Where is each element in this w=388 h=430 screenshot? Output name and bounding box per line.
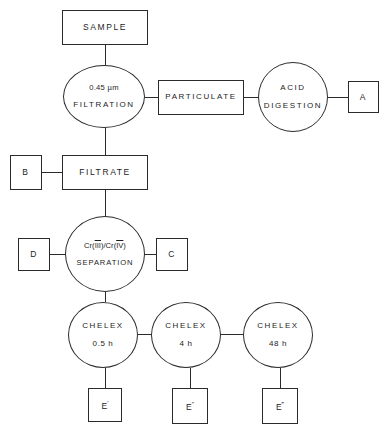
node-chelex-4h-label-line2: 4 h [180, 340, 193, 348]
node-a-label: A [360, 93, 367, 102]
node-b[interactable]: B [10, 155, 42, 190]
node-e2-label: E″ [186, 401, 194, 412]
node-e1-label: E′ [102, 400, 109, 411]
node-e3[interactable]: E‴ [262, 388, 298, 424]
node-a[interactable]: A [348, 81, 379, 113]
node-chelex-05h-label-line2: 0.5 h [93, 340, 114, 348]
node-chelex-4h[interactable]: CHELEX 4 h [151, 302, 221, 368]
node-sample-label: SAMPLE [83, 23, 127, 32]
node-d[interactable]: D [18, 238, 50, 271]
node-separation-label-line2: SEPARATION [77, 259, 134, 267]
node-acid-digestion[interactable]: ACID DIGESTION [258, 62, 328, 132]
node-filtrate-label: FILTRATE [79, 168, 131, 177]
node-e1[interactable]: E′ [88, 388, 122, 422]
node-e3-label: E‴ [276, 401, 284, 412]
node-b-label: B [22, 168, 29, 177]
node-c[interactable]: C [156, 238, 188, 271]
node-acid-digestion-label-line1: ACID [280, 84, 306, 92]
node-d-label: D [30, 250, 38, 259]
node-acid-digestion-label-line2: DIGESTION [264, 102, 322, 110]
node-chelex-05h[interactable]: CHELEX 0.5 h [68, 302, 138, 368]
node-particulate[interactable]: PARTICULATE [158, 80, 244, 115]
node-sample[interactable]: SAMPLE [62, 10, 148, 45]
node-separation-label-line1: Cr(III)/Cr(IV) [84, 242, 126, 250]
node-e2[interactable]: E″ [172, 388, 208, 424]
node-chelex-05h-label-line1: CHELEX [82, 322, 124, 330]
node-chelex-4h-label-line1: CHELEX [165, 322, 207, 330]
node-chelex-48h-label-line2: 48 h [269, 340, 287, 348]
node-chelex-48h-label-line1: CHELEX [257, 322, 299, 330]
node-particulate-label: PARTICULATE [165, 93, 236, 101]
node-filtration-label-line2: FILTRATION [73, 101, 134, 109]
node-separation[interactable]: Cr(III)/Cr(IV) SEPARATION [65, 216, 145, 292]
node-filtration-label-line1: 0.45 µm [89, 84, 119, 92]
node-c-label: C [168, 250, 176, 259]
node-filtrate[interactable]: FILTRATE [62, 155, 148, 190]
node-filtration[interactable]: 0.45 µm FILTRATION [63, 65, 145, 128]
flowchart-diagram: SAMPLE 0.45 µm FILTRATION PARTICULATE AC… [0, 0, 388, 430]
node-chelex-48h[interactable]: CHELEX 48 h [243, 302, 313, 368]
